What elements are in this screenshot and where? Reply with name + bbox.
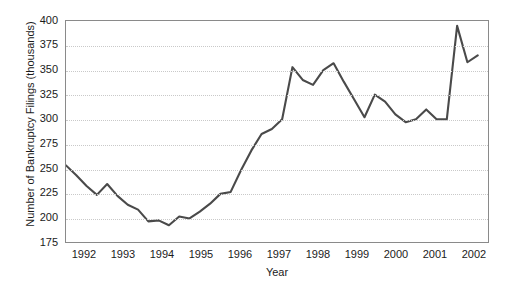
series-line-bankruptcy-filings — [66, 26, 478, 225]
gridline-225 — [66, 194, 488, 195]
y-tick-label-400: 400 — [18, 15, 58, 25]
gridline-200 — [66, 219, 488, 220]
y-tick-label-350: 350 — [18, 64, 58, 74]
y-tick-label-300: 300 — [18, 113, 58, 123]
y-tick-label-325: 325 — [18, 89, 58, 99]
gridline-375 — [66, 46, 488, 47]
y-tick-label-200: 200 — [18, 212, 58, 222]
x-tick-label-1994: 1994 — [142, 248, 182, 260]
x-axis-title: Year — [65, 266, 489, 278]
x-tick-label-2002: 2002 — [454, 248, 494, 260]
y-tick-label-375: 375 — [18, 39, 58, 49]
y-tick-label-175: 175 — [18, 237, 58, 247]
gridline-300 — [66, 120, 488, 121]
x-tick-label-1993: 1993 — [103, 248, 143, 260]
gridline-350 — [66, 71, 488, 72]
bankruptcy-filings-line-chart: Number of Bankruptcy Filings (thousands)… — [0, 0, 509, 294]
y-tick-label-225: 225 — [18, 187, 58, 197]
x-tick-label-1998: 1998 — [298, 248, 338, 260]
y-tick-label-275: 275 — [18, 138, 58, 148]
x-tick-label-1995: 1995 — [181, 248, 221, 260]
x-tick-label-1999: 1999 — [337, 248, 377, 260]
gridline-275 — [66, 145, 488, 146]
x-tick-label-1997: 1997 — [259, 248, 299, 260]
gridline-250 — [66, 170, 488, 171]
gridline-325 — [66, 95, 488, 96]
y-tick-label-250: 250 — [18, 163, 58, 173]
series-svg — [66, 21, 488, 242]
x-tick-label-2000: 2000 — [376, 248, 416, 260]
x-tick-label-1996: 1996 — [220, 248, 260, 260]
plot-area — [65, 20, 489, 243]
x-tick-label-1992: 1992 — [64, 248, 104, 260]
x-tick-label-2001: 2001 — [415, 248, 455, 260]
